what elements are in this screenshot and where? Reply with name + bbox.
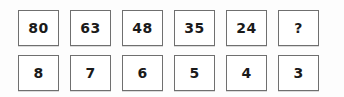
puzzle-grid: 80 63 48 35 24 ? 8 7	[18, 10, 319, 91]
cell-top-2[interactable]: 63	[70, 10, 111, 46]
unknown-marker: ?	[294, 21, 303, 35]
cell-bottom-2[interactable]: 7	[70, 55, 111, 91]
cell-top-5[interactable]: 24	[226, 10, 267, 46]
cell-top-1[interactable]: 80	[18, 10, 59, 46]
number-sequence-puzzle: 80 63 48 35 24 ? 8 7	[0, 0, 344, 97]
cell-value: 35	[184, 21, 204, 35]
cell-value: 6	[137, 66, 147, 80]
table-row: 8 7 6 5 4 3	[18, 55, 319, 91]
cell-value: 3	[293, 66, 303, 80]
cell-bottom-5[interactable]: 4	[226, 55, 267, 91]
cell-value: 8	[33, 66, 43, 80]
cell-top-4[interactable]: 35	[174, 10, 215, 46]
cell-bottom-1[interactable]: 8	[18, 55, 59, 91]
cell-value: 63	[80, 21, 100, 35]
cell-top-3[interactable]: 48	[122, 10, 163, 46]
cell-bottom-3[interactable]: 6	[122, 55, 163, 91]
cell-value: 24	[236, 21, 256, 35]
cell-bottom-6[interactable]: 3	[278, 55, 319, 91]
cell-value: 4	[241, 66, 251, 80]
cell-value: 48	[132, 21, 152, 35]
cell-value: 5	[189, 66, 199, 80]
cell-value: 7	[85, 66, 95, 80]
cell-value: 80	[28, 21, 48, 35]
table-row: 80 63 48 35 24 ?	[18, 10, 319, 46]
cell-bottom-4[interactable]: 5	[174, 55, 215, 91]
cell-top-6-unknown[interactable]: ?	[278, 10, 319, 46]
